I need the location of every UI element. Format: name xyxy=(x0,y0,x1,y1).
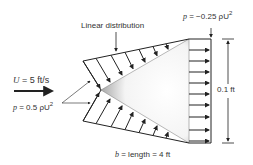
length-label: b = length = 4 ft xyxy=(115,150,170,159)
velocity-label: U = 5 ft/s xyxy=(13,75,49,85)
tip-pressure-label: p = 0.5 ρU2 xyxy=(13,101,53,112)
linear-distribution-label: Linear distribution xyxy=(81,21,144,30)
top-pressure-value: = −0.25 ρU xyxy=(187,12,229,21)
tip-pressure-exponent: 2 xyxy=(50,101,53,107)
top-pressure-exponent: 2 xyxy=(229,10,232,16)
velocity-value: = 5 ft/s xyxy=(20,75,50,85)
diagram-root: Linear distribution p = −0.25 ρU2 U = 5 … xyxy=(0,0,253,165)
height-label: 0.1 ft xyxy=(216,85,236,94)
top-pressure-label: p = −0.25 ρU2 xyxy=(183,10,232,21)
tip-pressure-value: = 0.5 ρU xyxy=(17,103,50,112)
tip-pressure-leaders xyxy=(62,81,90,103)
base-pressure-distribution xyxy=(189,39,211,143)
length-value: = length = 4 ft xyxy=(119,150,170,159)
